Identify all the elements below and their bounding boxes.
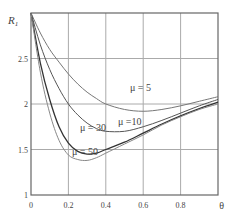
x-tick-label: 0 [29,201,33,210]
y-tick-label: 2 [24,100,28,109]
series-line [31,13,218,111]
x-tick-label: 0.2 [63,201,73,210]
series-label: μ =10 [118,116,142,127]
series-label: μ = 50 [72,146,98,157]
y-tick-label: 1 [24,191,28,200]
x-axis-label: θ [219,200,224,211]
x-tick-label: 0.8 [176,201,186,210]
series-line [31,13,218,161]
series-label: μ = 30 [80,122,106,133]
series-line [31,13,218,132]
line-chart: 00.20.40.60.811.522.5θR1μ = 5μ =10μ = 30… [0,0,230,211]
y-axis-label: R1 [7,14,18,28]
x-tick-label: 0.6 [138,201,148,210]
y-tick-label: 1.5 [18,146,28,155]
series-lines [31,13,218,161]
x-tick-label: 0.4 [101,201,111,210]
series-line [31,13,218,154]
y-tick-label: 2.5 [18,55,28,64]
series-label: μ = 5 [130,82,151,93]
